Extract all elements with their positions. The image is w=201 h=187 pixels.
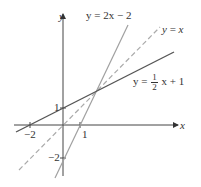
label-line-y-equals-x: y = x — [162, 24, 184, 35]
tick-label-x-neg2: −2 — [24, 129, 36, 140]
label-line-half-x-plus-1: y = 1 2 x + 1 — [133, 73, 184, 92]
y-axis-label: y — [59, 11, 64, 22]
label-line-2x-minus-2: y = 2x − 2 — [86, 10, 131, 21]
label-eq: = — [170, 23, 176, 35]
tick-label-y-neg2: −2 — [48, 152, 60, 163]
label-y: y — [162, 23, 167, 35]
fraction-denominator: 2 — [151, 83, 158, 92]
line-y-equals-half-x-plus-1 — [16, 52, 174, 132]
line-y-equals-x — [19, 27, 160, 170]
tick-label-y-1: 1 — [54, 102, 60, 113]
line-y-equals-2x-minus-2 — [55, 25, 128, 178]
x-axis-label: x — [180, 120, 185, 131]
label-rhs: x + 1 — [161, 75, 184, 87]
tick-label-x-1: 1 — [82, 129, 88, 140]
label-x: x — [179, 23, 184, 35]
label-lhs: y = — [133, 75, 147, 87]
fraction-one-half: 1 2 — [151, 73, 158, 92]
